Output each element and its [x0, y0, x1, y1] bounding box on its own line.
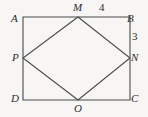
vertex-label-o: O — [74, 103, 82, 114]
vertex-label-c: C — [131, 93, 138, 104]
vertex-label-n: N — [131, 52, 138, 63]
vertex-label-b: B — [127, 13, 134, 24]
geometry-figure: A B C D M N O P 4 3 — [0, 0, 148, 117]
rhombus-MNOP — [23, 17, 130, 100]
vertex-label-p: P — [12, 52, 19, 63]
vertex-label-a: A — [11, 13, 18, 24]
rectangle-ABCD — [23, 17, 130, 100]
measure-label-mb: 4 — [99, 2, 105, 13]
vertex-label-m: M — [73, 2, 82, 13]
measure-label-bn: 3 — [132, 31, 138, 42]
geometry-figure-canvas — [0, 0, 148, 117]
vertex-label-d: D — [11, 93, 19, 104]
